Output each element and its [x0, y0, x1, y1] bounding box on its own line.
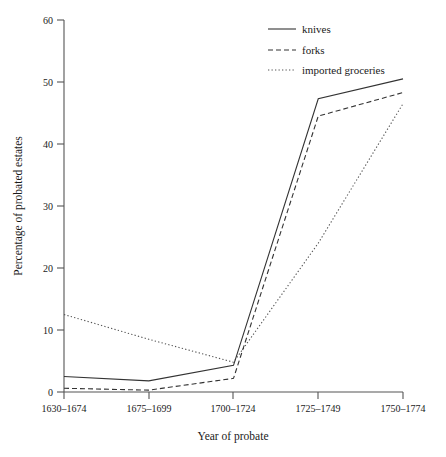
legend-label-imported-groceries: imported groceries: [302, 64, 385, 76]
x-tick-label-0: 1630–1674: [42, 403, 87, 414]
x-axis-title: Year of probate: [197, 430, 268, 443]
chart-container: 0 10 20 30 40 50 60 1630–1674 1675–1699 …: [0, 0, 446, 457]
x-tick-label-3: 1725–1749: [296, 403, 341, 414]
y-tick-label-50: 50: [43, 77, 53, 88]
y-axis-ticks: 0 10 20 30 40 50 60: [43, 15, 64, 398]
series-line-knives: [64, 79, 403, 381]
legend-label-forks: forks: [302, 44, 325, 56]
y-tick-label-30: 30: [43, 201, 53, 212]
y-tick-label-60: 60: [43, 15, 53, 26]
x-tick-label-1: 1675–1699: [127, 403, 172, 414]
chart-legend: knives forks imported groceries: [268, 23, 385, 76]
y-tick-label-10: 10: [43, 325, 53, 336]
series-line-forks: [64, 93, 403, 391]
x-tick-label-2: 1700–1724: [211, 403, 256, 414]
y-tick-label-20: 20: [43, 263, 53, 274]
legend-label-knives: knives: [302, 23, 331, 35]
y-tick-label-40: 40: [43, 139, 53, 150]
y-axis-title: Percentage of probated estates: [12, 136, 25, 276]
y-tick-label-0: 0: [48, 387, 53, 398]
line-chart-svg: 0 10 20 30 40 50 60 1630–1674 1675–1699 …: [0, 0, 446, 457]
x-axis-ticks: 1630–1674 1675–1699 1700–1724 1725–1749 …: [42, 392, 426, 414]
series-line-imported-groceries: [64, 104, 403, 363]
x-tick-label-4: 1750–1774: [381, 403, 426, 414]
